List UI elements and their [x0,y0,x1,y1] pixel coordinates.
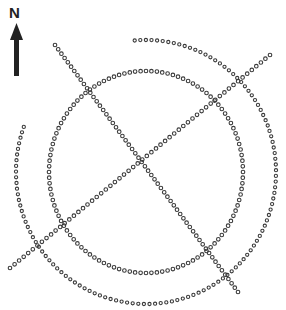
inner-dotted-circle [47,69,245,275]
diagonal-dotted-line-2 [53,43,240,294]
outer-dotted-circle [14,38,277,305]
north-arrow-icon [10,23,23,76]
formation-diagram [0,0,286,310]
